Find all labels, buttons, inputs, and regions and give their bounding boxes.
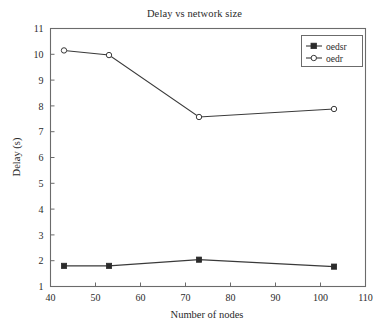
- y-tick-label: 5: [39, 178, 44, 189]
- x-tick-label: 100: [313, 292, 328, 303]
- series-line-oedr: [64, 50, 334, 117]
- data-point-oedsr-3: [331, 264, 336, 269]
- legend-label-oedr: oedr: [326, 54, 344, 64]
- series-oedsr: [61, 257, 336, 269]
- chart-legend[interactable]: oedsr oedr: [302, 36, 363, 67]
- y-tick-label: 3: [39, 230, 44, 241]
- y-tick-label: 8: [39, 101, 44, 112]
- plot-frame: [51, 29, 366, 287]
- y-tick-label: 2: [39, 255, 44, 266]
- series-oedr: [61, 48, 336, 120]
- x-tick-label: 110: [358, 292, 373, 303]
- legend-marker-open-circle: [311, 55, 316, 60]
- x-tick-label: 40: [46, 292, 56, 303]
- x-tick-label: 70: [181, 292, 191, 303]
- x-axis-title: Number of nodes: [171, 309, 244, 320]
- y-tick-label: 4: [39, 204, 44, 215]
- data-point-oedsr-0: [61, 263, 66, 268]
- legend-marker-filled-square: [311, 43, 316, 48]
- x-tick-label: 60: [136, 292, 146, 303]
- x-axis-ticks: 405060708090100110: [46, 283, 373, 303]
- data-point-oedr-3: [331, 106, 336, 111]
- data-point-oedr-1: [106, 52, 111, 57]
- y-tick-label: 1: [39, 281, 44, 292]
- y-axis-ticks: 1234567891011: [34, 23, 55, 292]
- chart-figure: Delay vs network size 1234567891011 4050…: [0, 0, 389, 326]
- data-series-layer: [61, 48, 336, 270]
- x-tick-label: 90: [271, 292, 281, 303]
- y-tick-label: 9: [39, 75, 44, 86]
- legend-label-oedsr: oedsr: [326, 42, 347, 52]
- data-point-oedsr-1: [106, 263, 111, 268]
- y-tick-label: 11: [34, 23, 44, 34]
- y-tick-label: 6: [39, 152, 44, 163]
- data-point-oedr-2: [196, 114, 201, 119]
- x-tick-label: 50: [91, 292, 101, 303]
- x-tick-label: 80: [226, 292, 236, 303]
- data-point-oedsr-2: [196, 257, 201, 262]
- y-tick-label: 7: [39, 126, 44, 137]
- line-chart-plot: 1234567891011 405060708090100110 Number …: [0, 0, 389, 326]
- y-tick-label: 10: [34, 49, 44, 60]
- data-point-oedr-0: [61, 48, 66, 53]
- y-axis-title: Delay (s): [11, 137, 23, 176]
